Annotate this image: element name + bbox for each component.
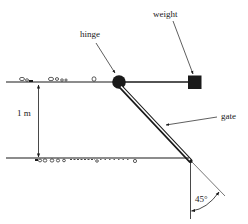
weight-label: weight — [153, 9, 178, 19]
weight-leader — [173, 21, 193, 74]
angle-construction — [191, 162, 226, 219]
gate-label: gate — [221, 111, 236, 121]
top-surface — [6, 77, 113, 82]
gate-leader — [166, 117, 217, 125]
hinge-label: hinge — [80, 29, 100, 39]
bottom-surface — [6, 158, 189, 163]
weight-block — [188, 76, 202, 90]
angle-label: 45° — [195, 194, 208, 204]
gate-diagram: 1 m 45° weight hinge gate — [0, 0, 248, 224]
hinge-leader — [96, 43, 115, 73]
gate-plate — [120, 86, 191, 161]
depth-label: 1 m — [17, 108, 31, 118]
